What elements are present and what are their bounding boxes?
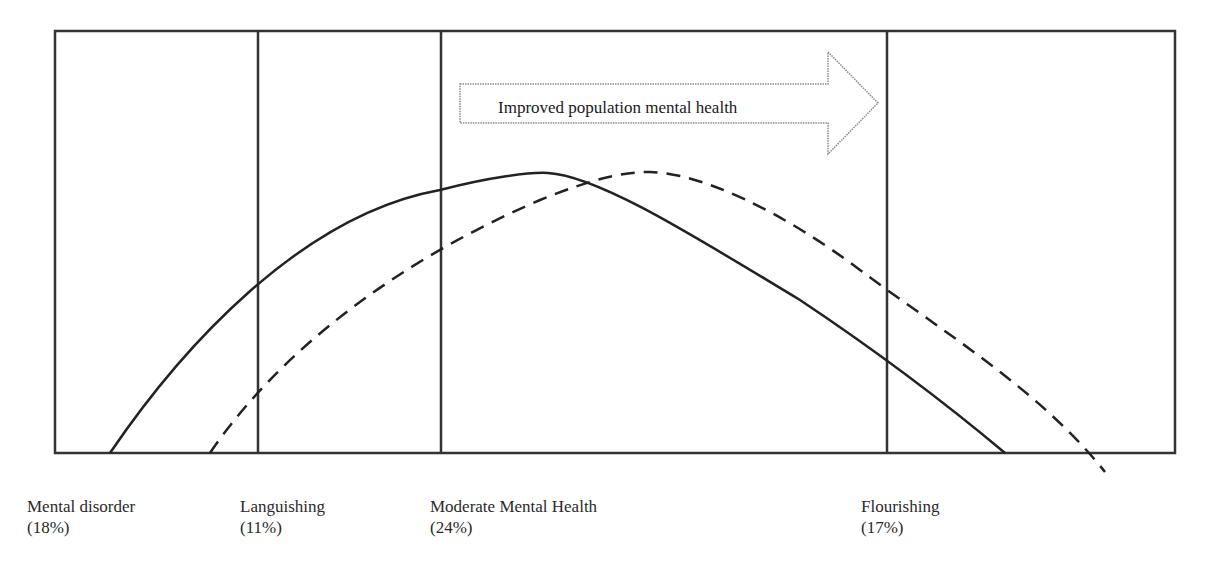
category-flourishing: Flourishing (17%): [861, 496, 939, 538]
category-percent: (11%): [240, 517, 325, 538]
mental-health-continuum-diagram: [0, 0, 1215, 570]
arrow-label: Improved population mental health: [498, 98, 737, 118]
category-name: Mental disorder: [27, 496, 135, 517]
category-mental-disorder: Mental disorder (18%): [27, 496, 135, 538]
category-percent: (24%): [430, 517, 597, 538]
category-percent: (17%): [861, 517, 939, 538]
current-distribution-curve: [110, 173, 1005, 453]
category-percent: (18%): [27, 517, 135, 538]
category-name: Moderate Mental Health: [430, 496, 597, 517]
category-languishing: Languishing (11%): [240, 496, 325, 538]
category-name: Languishing: [240, 496, 325, 517]
category-name: Flourishing: [861, 496, 939, 517]
category-moderate-mental-health: Moderate Mental Health (24%): [430, 496, 597, 538]
